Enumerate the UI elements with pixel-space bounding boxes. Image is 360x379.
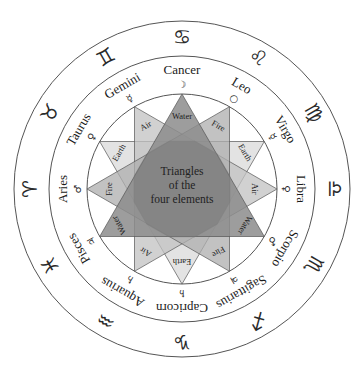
zodiac-cancer-icon: ♋ <box>173 25 191 49</box>
zodiac-capricorn-icon: ♑ <box>173 330 191 354</box>
sign-label-aries: Aries <box>55 175 70 203</box>
planet-cancer-icon: ☽ <box>178 79 187 90</box>
zodiac-aries-icon: ♈ <box>18 180 42 198</box>
planet-aries-icon: ♂ <box>72 184 83 193</box>
element-label-earth: Earth <box>172 257 191 267</box>
zodiac-wheel-diagram: WaterFireEarthAirWaterFireEarthAirWaterF… <box>0 0 360 379</box>
planet-capricorn-icon: ♄ <box>178 288 187 299</box>
center-title-line-3: four elements <box>151 193 214 205</box>
center-title-line-1: Triangles <box>160 165 204 178</box>
planet-libra-icon: ♀ <box>281 185 292 192</box>
center-title-line-2: of the <box>169 179 196 191</box>
element-label-water: Water <box>172 111 192 121</box>
element-label-air: Air <box>250 183 260 195</box>
sign-label-capricorn: Capricorn <box>156 301 208 316</box>
zodiac-libra-icon: ♎ <box>323 180 347 198</box>
element-label-fire: Fire <box>104 182 114 196</box>
sign-label-libra: Libra <box>294 175 309 203</box>
sign-label-cancer: Cancer <box>164 62 201 77</box>
